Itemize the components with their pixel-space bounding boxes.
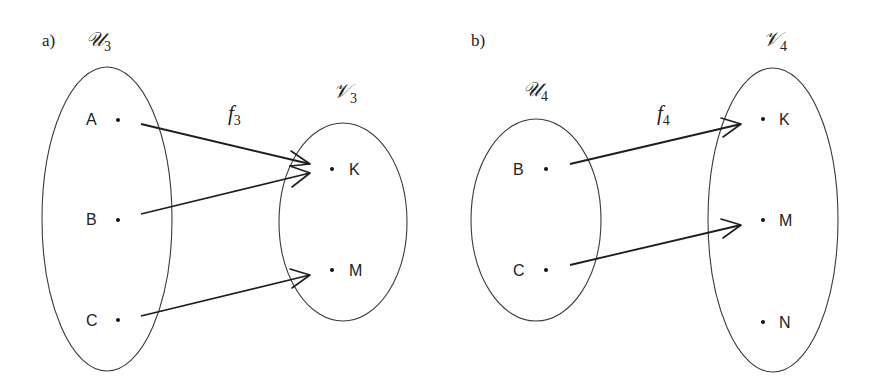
- element-b-in-u3: B: [86, 211, 120, 228]
- element-a-in-u3: A: [86, 111, 120, 128]
- element-dot: [761, 117, 765, 121]
- element-k-in-v4: K: [761, 111, 790, 128]
- function-f3-label: f3: [228, 101, 241, 128]
- arrow-b-to-k: [141, 166, 310, 214]
- arrowhead-icon: [290, 151, 310, 166]
- element-dot: [116, 118, 120, 122]
- panel-a-label: a): [42, 31, 55, 50]
- element-dot: [761, 218, 765, 222]
- element-dot: [116, 318, 120, 322]
- set-v3-label: 𝒱3: [333, 79, 357, 106]
- set-v4-label: 𝒱4: [763, 27, 787, 54]
- element-label: B: [513, 161, 524, 178]
- element-dot: [761, 320, 765, 324]
- set-u4-label: 𝒰4: [523, 77, 548, 104]
- arrow-b-to-k: [570, 118, 741, 164]
- element-label: C: [86, 312, 98, 329]
- element-c-in-u4: C: [513, 262, 548, 279]
- element-label: M: [779, 212, 792, 229]
- mapping-diagram: a) 𝒰3 𝒱3 f3 A B C K M: [0, 0, 869, 385]
- set-u4-ellipse: [471, 119, 601, 321]
- element-label: A: [86, 111, 97, 128]
- panel-a: a) 𝒰3 𝒱3 f3 A B C K M: [42, 27, 407, 371]
- element-label: K: [349, 161, 360, 178]
- element-m-in-v4: M: [761, 212, 792, 229]
- element-b-in-u4: B: [513, 161, 548, 178]
- set-v3-ellipse: [279, 123, 407, 321]
- element-dot: [330, 268, 334, 272]
- set-u3-label: 𝒰3: [86, 27, 111, 54]
- element-label: N: [779, 314, 791, 331]
- function-f4-label: f4: [657, 101, 670, 128]
- element-dot: [116, 218, 120, 222]
- arrow-c-to-m: [141, 269, 310, 316]
- panel-b: b) 𝒱4 𝒰4 f4 B C K M N: [471, 27, 838, 372]
- element-c-in-u3: C: [86, 312, 120, 329]
- arrow-c-to-m: [570, 219, 741, 265]
- element-dot: [544, 268, 548, 272]
- element-dot: [544, 167, 548, 171]
- element-dot: [330, 167, 334, 171]
- panel-b-label: b): [471, 31, 485, 50]
- element-m-in-v3: M: [330, 262, 362, 279]
- element-label: M: [349, 262, 362, 279]
- element-label: B: [86, 211, 97, 228]
- set-v4-ellipse: [708, 68, 838, 372]
- element-label: K: [779, 111, 790, 128]
- element-n-in-v4: N: [761, 314, 791, 331]
- element-label: C: [513, 262, 525, 279]
- element-k-in-v3: K: [330, 161, 360, 178]
- arrow-a-to-k: [141, 124, 310, 166]
- set-u3-ellipse: [42, 67, 172, 371]
